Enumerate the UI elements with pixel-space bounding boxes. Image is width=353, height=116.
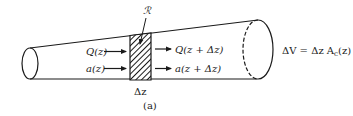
right-end-back-arc [243,20,258,79]
outflow-area-label: a(z + Δz) [175,63,221,74]
inflow-area-label: a(z) [86,63,105,74]
volume-equation-rhs: (z) [338,45,351,56]
volume-equation-lhs: ΔV = Δz A [282,45,335,56]
slice-width-label: Δz [134,86,147,97]
left-end-ellipse [22,48,38,79]
region-label: ℛ [143,5,152,16]
panel-label: (a) [143,100,157,111]
right-end-front-arc [258,20,273,79]
tapered-tube-diagram: ℛ Q(z) a(z) Q(z + Δz) a(z + Δz) ΔV = Δz … [0,0,353,116]
volume-equation: ΔV = Δz Ac(z) [282,45,351,58]
outflow-flow-label: Q(z + Δz) [175,44,224,55]
